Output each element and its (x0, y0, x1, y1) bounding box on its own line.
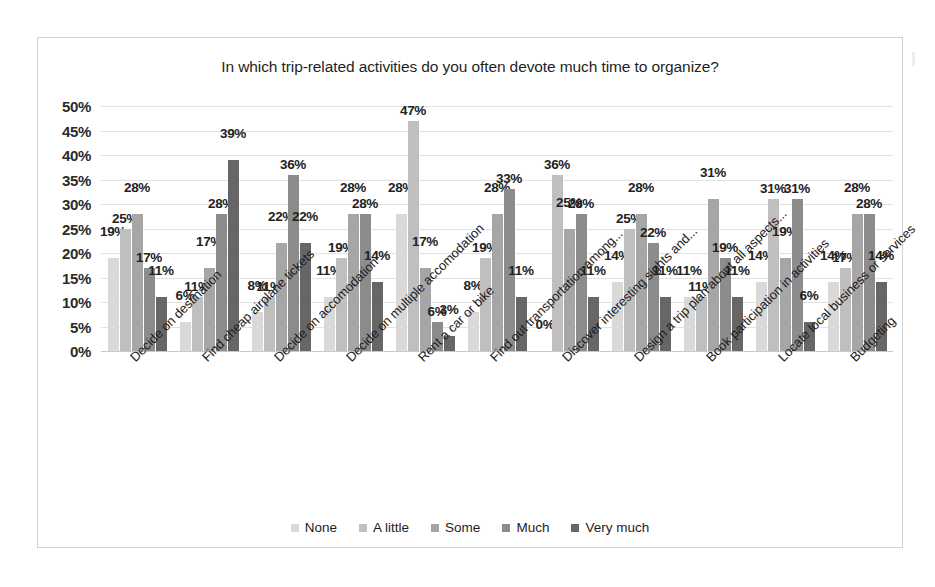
y-axis-tick: 0% (70, 343, 91, 360)
legend-item[interactable]: Some (431, 520, 480, 535)
scan-artifact (912, 52, 915, 66)
bar-much[interactable]: 31% (792, 106, 803, 351)
y-axis: 50%45%40%35%30%25%20%15%10%5%0% (38, 106, 95, 351)
legend-swatch (431, 524, 439, 532)
bar-rect (276, 243, 287, 351)
bar-group: 19%25%28%17%11% (101, 106, 173, 351)
y-axis-tick: 10% (62, 294, 91, 311)
bar-rect (492, 214, 503, 351)
y-axis-tick: 25% (62, 220, 91, 237)
legend-item[interactable]: Much (502, 520, 549, 535)
legend-label: None (305, 520, 337, 535)
bar-much[interactable]: 28% (216, 106, 227, 351)
bar-some[interactable]: 28% (852, 106, 863, 351)
bar-rect (108, 258, 119, 351)
bar-none[interactable]: 19% (108, 106, 119, 351)
bar-a-little[interactable]: 19% (336, 106, 347, 351)
y-axis-tick: 5% (70, 318, 91, 335)
bar-some[interactable]: 25% (564, 106, 575, 351)
bar-some[interactable]: 17% (204, 106, 215, 351)
bar-much[interactable]: 28% (576, 106, 587, 351)
bar-rect (180, 322, 191, 351)
bar-value-label: 22% (292, 209, 318, 224)
bar-some[interactable]: 28% (348, 106, 359, 351)
legend-label: A little (373, 520, 409, 535)
bar-a-little[interactable]: 25% (624, 106, 635, 351)
y-axis-tick: 20% (62, 245, 91, 262)
bar-a-little[interactable]: 25% (120, 106, 131, 351)
y-axis-tick: 30% (62, 196, 91, 213)
bar-rect (396, 214, 407, 351)
chart-legend: NoneA littleSomeMuchVery much (38, 520, 902, 535)
bar-a-little[interactable]: 36% (552, 106, 563, 351)
bar-rect (132, 214, 143, 351)
legend-item[interactable]: Very much (571, 520, 649, 535)
bar-some[interactable]: 31% (708, 106, 719, 351)
legend-swatch (502, 524, 510, 532)
y-axis-tick: 15% (62, 269, 91, 286)
bar-value-label: 11% (508, 263, 533, 278)
y-axis-tick: 50% (62, 98, 91, 115)
bar-a-little[interactable]: 11% (192, 106, 203, 351)
chart-card: In which trip-related activities do you … (37, 37, 903, 548)
bar-a-little[interactable]: 11% (696, 106, 707, 351)
chart-title: In which trip-related activities do you … (38, 58, 902, 76)
bar-much[interactable]: 28% (864, 106, 875, 351)
x-axis: Decide on destinationFind cheap airplane… (101, 354, 893, 504)
bar-value-label: 11% (148, 263, 173, 278)
legend-swatch (291, 524, 299, 532)
legend-label: Much (516, 520, 549, 535)
bar-a-little[interactable]: 17% (840, 106, 851, 351)
bar-a-little[interactable]: 11% (264, 106, 275, 351)
y-axis-tick: 40% (62, 147, 91, 164)
legend-swatch (571, 524, 579, 532)
legend-label: Some (445, 520, 480, 535)
bar-a-little[interactable]: 47% (408, 106, 419, 351)
y-axis-tick: 35% (62, 171, 91, 188)
legend-item[interactable]: None (291, 520, 337, 535)
legend-item[interactable]: A little (359, 520, 409, 535)
bar-much[interactable]: 22% (648, 106, 659, 351)
bar-some[interactable]: 19% (780, 106, 791, 351)
bar-much[interactable]: 19% (720, 106, 731, 351)
bar-much[interactable]: 28% (360, 106, 371, 351)
bar-some[interactable]: 22% (276, 106, 287, 351)
y-axis-tick: 45% (62, 122, 91, 139)
bar-some[interactable]: 28% (132, 106, 143, 351)
bar-value-label: 39% (220, 126, 246, 141)
bar-some[interactable]: 28% (492, 106, 503, 351)
bar-much[interactable]: 17% (144, 106, 155, 351)
bar-value-label: 6% (800, 288, 819, 303)
legend-swatch (359, 524, 367, 532)
bar-much[interactable]: 36% (288, 106, 299, 351)
bar-much[interactable]: 33% (504, 106, 515, 351)
bar-rect (120, 229, 131, 352)
legend-label: Very much (585, 520, 649, 535)
